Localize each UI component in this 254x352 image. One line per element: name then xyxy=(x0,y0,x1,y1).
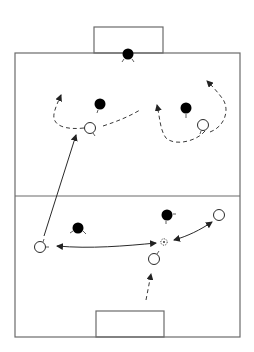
bottom-goal xyxy=(96,311,164,337)
pitch xyxy=(15,27,240,337)
run-top-left-curve xyxy=(54,95,84,128)
defender-top-left[interactable] xyxy=(95,99,106,114)
attacker-bottom-right[interactable] xyxy=(214,210,225,221)
attacker-top-left[interactable] xyxy=(85,123,96,137)
goalkeeper[interactable] xyxy=(122,49,134,63)
passes xyxy=(44,135,212,247)
defender-top-right[interactable] xyxy=(181,103,192,119)
run-top-diagonal xyxy=(103,110,140,126)
attacker-top-right[interactable] xyxy=(198,120,209,135)
soccer-drill-diagram xyxy=(0,0,254,352)
defender-bottom-left[interactable] xyxy=(70,223,86,235)
attackers xyxy=(35,120,225,265)
pass-exchange-left xyxy=(57,243,156,247)
defender-bottom-right[interactable] xyxy=(162,210,177,225)
pitch-boundary xyxy=(15,53,240,337)
attacker-bottom-center[interactable] xyxy=(149,251,160,265)
ball[interactable] xyxy=(161,239,167,245)
runs xyxy=(54,81,226,300)
pass-long-to-top-left xyxy=(44,135,76,236)
run-from-bottom-goal xyxy=(146,274,151,300)
defenders xyxy=(70,49,192,235)
pass-exchange-right xyxy=(174,222,212,240)
run-top-right-loop-upper xyxy=(207,81,226,132)
attacker-bottom-left[interactable] xyxy=(35,239,50,253)
